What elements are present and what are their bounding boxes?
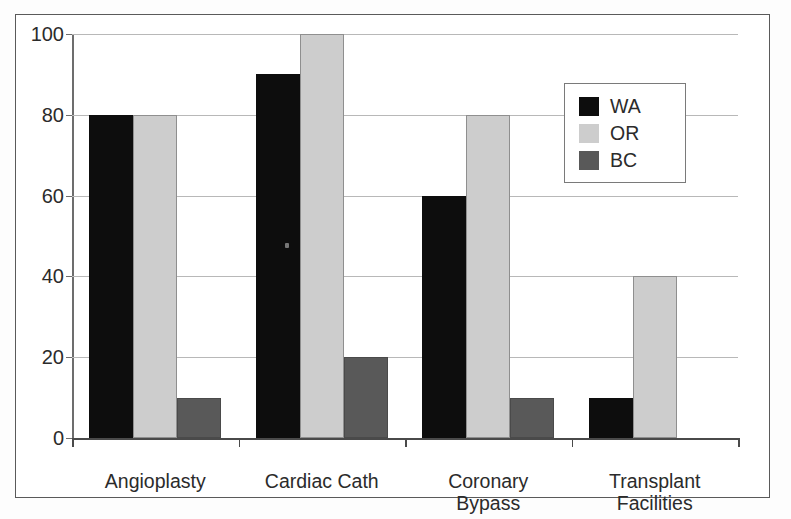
bar-or-1 xyxy=(300,34,344,438)
x-axis-label: Angioplasty xyxy=(72,470,239,492)
legend-item-or: OR xyxy=(579,120,685,147)
bar-bc-1 xyxy=(344,357,388,438)
x-tick-mark xyxy=(72,438,74,447)
y-tick-label: 20 xyxy=(42,347,64,367)
chart-frame: 020406080100 AngioplastyCardiac CathCoro… xyxy=(15,14,770,498)
x-axis-label: Cardiac Cath xyxy=(239,470,406,492)
y-tick-mark xyxy=(66,34,72,35)
y-tick-label: 60 xyxy=(42,186,64,206)
y-tick-label: 100 xyxy=(31,24,64,44)
y-tick-mark xyxy=(66,115,72,116)
y-tick-mark xyxy=(66,196,72,197)
y-tick-mark xyxy=(66,276,72,277)
bar-or-0 xyxy=(133,115,177,438)
bar-wa-2 xyxy=(422,196,466,438)
legend-item-bc: BC xyxy=(579,147,685,174)
y-tick-label: 40 xyxy=(42,266,64,286)
bar-wa-1 xyxy=(256,74,300,438)
y-tick-label: 0 xyxy=(53,428,64,448)
x-tick-mark xyxy=(572,438,574,447)
bar-wa-3 xyxy=(589,398,633,438)
gridline xyxy=(72,34,738,35)
bar-or-2 xyxy=(466,115,510,438)
light-gray-swatch-icon xyxy=(579,124,599,143)
legend-label-wa: WA xyxy=(610,97,641,117)
x-tick-mark xyxy=(405,438,407,447)
y-tick-mark xyxy=(66,357,72,358)
bar-bc-2 xyxy=(510,398,554,438)
bar-or-3 xyxy=(633,276,677,438)
y-tick-label: 80 xyxy=(42,105,64,125)
legend-item-wa: WA xyxy=(579,93,685,120)
figure-canvas: 020406080100 AngioplastyCardiac CathCoro… xyxy=(0,0,791,519)
legend-label-or: OR xyxy=(610,124,639,144)
black-swatch-icon xyxy=(579,97,599,116)
x-tick-mark xyxy=(239,438,241,447)
x-tick-mark xyxy=(738,438,740,447)
x-axis-label: Transplant Facilities xyxy=(572,470,739,515)
dark-gray-swatch-icon xyxy=(579,151,599,170)
x-axis-label: Coronary Bypass xyxy=(405,470,572,515)
y-axis-line xyxy=(72,34,74,438)
scan-artifact-speck xyxy=(285,243,289,248)
bar-wa-0 xyxy=(89,115,133,438)
legend-box: WA OR BC xyxy=(564,83,686,183)
bar-bc-0 xyxy=(177,398,221,438)
legend-label-bc: BC xyxy=(610,151,637,171)
